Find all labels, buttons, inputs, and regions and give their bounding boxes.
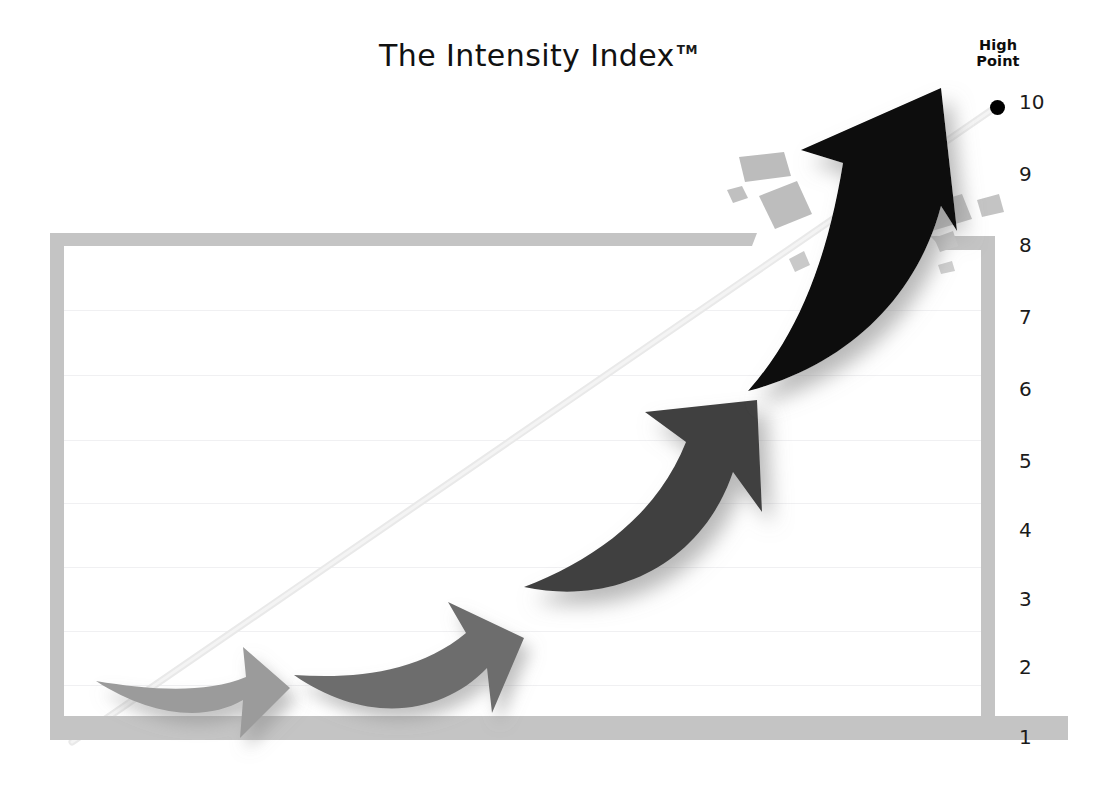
y-axis-tick: 8: [1019, 235, 1053, 255]
high-point-label: High Point: [952, 38, 1044, 69]
high-point-marker-icon: [990, 100, 1005, 115]
growth-arrow-3: [524, 400, 762, 592]
chart-frame: [50, 233, 1068, 740]
y-axis-tick: 10: [1019, 92, 1053, 112]
y-axis-tick: 1: [1019, 727, 1053, 747]
y-axis-tick: 6: [1019, 379, 1053, 399]
y-axis-tick: 3: [1019, 589, 1053, 609]
y-axis-tick: 4: [1019, 520, 1053, 540]
y-axis-tick: 2: [1019, 657, 1053, 677]
growth-arrow-2: [294, 602, 524, 713]
y-axis-tick: 7: [1019, 307, 1053, 327]
y-axis: 10 9 8 7 6 5 4 3 2 1: [1019, 92, 1067, 736]
growth-arrow-4: [748, 88, 957, 391]
intensity-index-infographic: The Intensity IndexTM High Point 10 9 8 …: [0, 0, 1111, 795]
high-point-label-line2: Point: [952, 54, 1044, 70]
high-point-label-line1: High: [952, 38, 1044, 54]
y-axis-tick: 5: [1019, 451, 1053, 471]
y-axis-tick: 9: [1019, 164, 1053, 184]
chart-graphics: [0, 0, 1111, 795]
